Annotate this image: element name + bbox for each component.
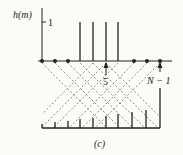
bottom-stems bbox=[42, 88, 160, 128]
top-stems bbox=[80, 22, 118, 61]
y-axis-label: h(m) bbox=[13, 9, 33, 21]
marker-n-minus-1-label: N − 1 bbox=[146, 75, 170, 86]
marker-n-minus-1: N − 1 bbox=[146, 62, 170, 86]
dashed-diagonals-right bbox=[42, 63, 160, 128]
dashed-diagonals-left bbox=[42, 63, 160, 128]
figure-caption: (c) bbox=[94, 138, 106, 150]
y-tick-label: 1 bbox=[48, 17, 53, 28]
marker-5: 5 bbox=[103, 62, 109, 87]
convolution-diagram: 1 h(m) 5 bbox=[0, 0, 183, 155]
marker-5-label: 5 bbox=[103, 76, 108, 87]
